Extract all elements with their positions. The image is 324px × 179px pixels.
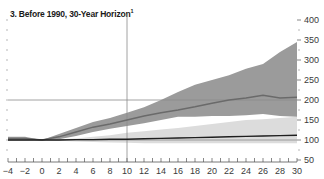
y-tick-label: 50 <box>304 155 314 165</box>
x-tick-label: 6 <box>90 166 95 176</box>
x-tick-label: 4 <box>73 166 78 176</box>
x-tick-label: 10 <box>122 166 132 176</box>
x-tick-label: 14 <box>156 166 166 176</box>
chart-area: −4−2024681012141618202224262830501001502… <box>0 0 324 179</box>
x-tick-label: 26 <box>258 166 268 176</box>
x-tick-label: 16 <box>173 166 183 176</box>
y-tick-label: 400 <box>304 15 319 25</box>
x-tick-label: 22 <box>224 166 234 176</box>
y-tick-label: 250 <box>304 75 319 85</box>
x-tick-label: 28 <box>275 166 285 176</box>
x-tick-label: −2 <box>20 166 30 176</box>
x-tick-label: 18 <box>190 166 200 176</box>
x-tick-label: 30 <box>292 166 302 176</box>
x-tick-label: 20 <box>207 166 217 176</box>
x-tick-label: 8 <box>107 166 112 176</box>
x-tick-label: 0 <box>39 166 44 176</box>
x-tick-label: −4 <box>3 166 13 176</box>
x-tick-label: 12 <box>139 166 149 176</box>
y-tick-label: 350 <box>304 35 319 45</box>
y-tick-label: 150 <box>304 115 319 125</box>
x-tick-label: 2 <box>56 166 61 176</box>
y-tick-label: 100 <box>304 135 319 145</box>
y-tick-label: 300 <box>304 55 319 65</box>
y-tick-label: 200 <box>304 95 319 105</box>
x-tick-label: 24 <box>241 166 251 176</box>
